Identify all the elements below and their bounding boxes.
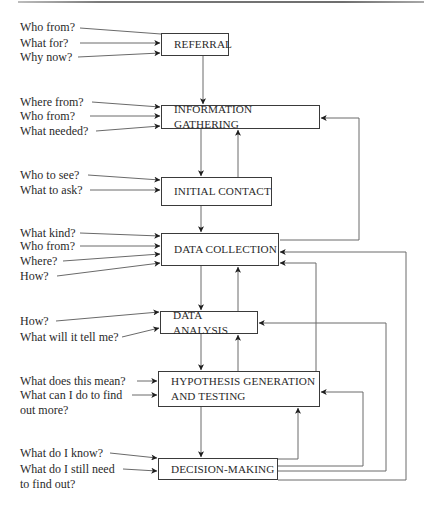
question-label: How? [20,269,49,283]
question-label: What can I do to find out more? [20,388,122,418]
stage-label: DATA ANALYSIS [173,308,257,338]
question-label: What kind? [20,226,76,240]
question-label: What for? [20,36,68,50]
question-label: Who from? [20,20,75,34]
stage-box-decision-making: DECISION-MAKING [158,458,278,480]
question-label: What needed? [20,124,88,138]
stage-label: DECISION-MAKING [171,462,274,477]
question-label: What does this mean? [20,374,126,388]
stage-label: DATA COLLECTION [174,242,277,257]
stage-box-initial-contact: INITIAL CONTACT [161,177,272,206]
question-label: What do I know? [20,446,103,460]
question-label: Who from? [20,239,75,253]
stage-label: INITIAL CONTACT [174,184,271,199]
stage-box-referral: REFERRAL [161,33,229,56]
question-label: Where from? [20,95,84,109]
stage-box-data-analysis: DATA ANALYSIS [160,311,258,334]
question-label: Why now? [20,50,72,64]
question-label: Who from? [20,109,75,123]
stage-label: INFORMATION GATHERING [174,102,319,132]
stage-box-data-collection: DATA COLLECTION [161,233,279,266]
stage-label: REFERRAL [174,37,232,52]
stage-box-hypothesis: HYPOTHESIS GENERATION AND TESTING [158,371,320,407]
question-label: How? [20,314,49,328]
question-label: Where? [20,254,57,268]
stage-label: HYPOTHESIS GENERATION AND TESTING [171,374,315,404]
question-label: What to ask? [20,183,83,197]
question-label: What do I still need to find out? [20,462,115,492]
stage-box-information-gathering: INFORMATION GATHERING [161,105,320,129]
question-label: What will it tell me? [20,330,119,344]
question-label: Who to see? [20,168,79,182]
